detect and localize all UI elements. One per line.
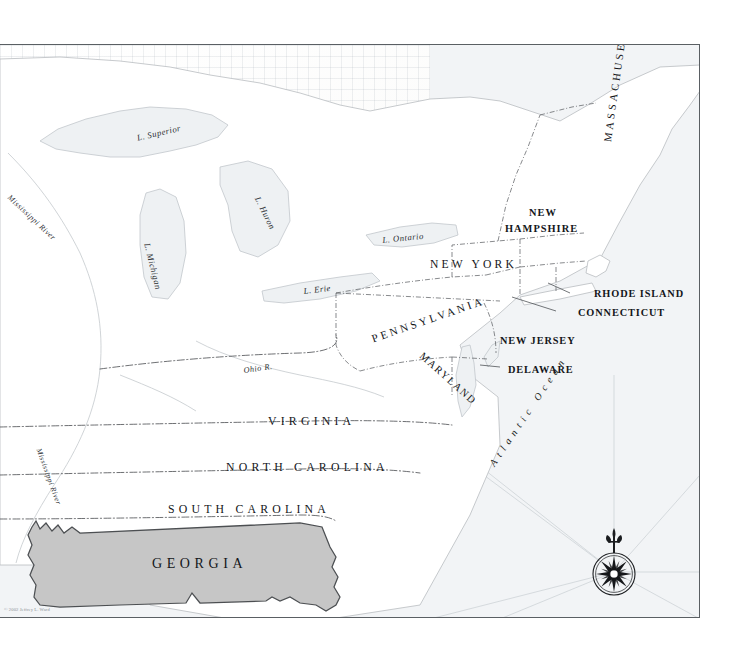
lake-michigan [140, 189, 186, 299]
georgia-highlight [28, 521, 340, 611]
map-plate: .coast{fill:#ffffff;stroke:#b9bdc0;strok… [0, 44, 700, 618]
compass-rose [581, 527, 647, 605]
map-credit: © 2002 Jeffrey L. Ward [4, 607, 50, 612]
map-screenshot: .coast{fill:#ffffff;stroke:#b9bdc0;strok… [0, 0, 733, 649]
fleur-de-lis-north-marker [606, 528, 622, 553]
